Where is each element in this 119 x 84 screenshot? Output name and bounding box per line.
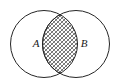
set-b-label: B	[81, 37, 88, 49]
venn-diagram-figure: A B	[0, 0, 119, 84]
venn-diagram-canvas: A B	[0, 0, 119, 84]
set-a-label: A	[32, 37, 40, 49]
